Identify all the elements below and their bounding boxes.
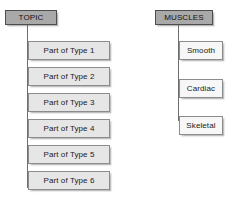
child-node-cardiac-label: Cardiac — [187, 85, 215, 93]
child-node-part-of-type-2[interactable]: Part of Type 2 — [28, 67, 110, 86]
child-node-part-of-type-3[interactable]: Part of Type 3 — [28, 93, 110, 112]
root-node-topic-label: TOPIC — [19, 14, 44, 22]
child-node-skeletal-label: Skeletal — [186, 122, 215, 130]
connector-trunk-muscles — [178, 25, 179, 121]
child-node-part-of-type-2-label: Part of Type 2 — [43, 73, 94, 81]
child-node-smooth-label: Smooth — [187, 47, 215, 55]
child-node-smooth[interactable]: Smooth — [179, 41, 223, 60]
child-node-part-of-type-4[interactable]: Part of Type 4 — [28, 119, 110, 138]
child-node-cardiac[interactable]: Cardiac — [179, 79, 223, 98]
child-node-part-of-type-5[interactable]: Part of Type 5 — [28, 145, 110, 164]
child-node-skeletal[interactable]: Skeletal — [179, 116, 223, 135]
child-node-part-of-type-4-label: Part of Type 4 — [43, 125, 94, 133]
child-node-part-of-type-5-label: Part of Type 5 — [43, 151, 94, 159]
root-node-muscles-label: MUSCLES — [164, 14, 203, 22]
child-node-part-of-type-1[interactable]: Part of Type 1 — [28, 41, 110, 60]
diagram-canvas: TOPIC Part of Type 1 Part of Type 2 Part… — [0, 0, 240, 204]
child-node-part-of-type-6[interactable]: Part of Type 6 — [28, 171, 110, 190]
child-node-part-of-type-3-label: Part of Type 3 — [43, 99, 94, 107]
child-node-part-of-type-6-label: Part of Type 6 — [43, 177, 94, 185]
child-node-part-of-type-1-label: Part of Type 1 — [43, 47, 94, 55]
root-node-topic[interactable]: TOPIC — [5, 10, 57, 25]
root-node-muscles[interactable]: MUSCLES — [155, 10, 213, 25]
